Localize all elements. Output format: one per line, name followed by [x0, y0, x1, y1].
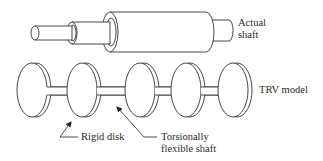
flexible-shaft-label-line1: Torsionally	[161, 131, 216, 143]
actual-shaft-label-line2: shaft	[238, 29, 266, 41]
diagram-canvas: Actual shaft TRV model Rigid disk Torsio…	[0, 0, 323, 161]
rigid-disk-1	[17, 63, 51, 117]
rigid-disk-2	[67, 63, 101, 117]
trv-model-illustration	[17, 63, 252, 117]
rigid-disk-leader-arrow	[60, 122, 78, 137]
rigid-disk-3	[125, 63, 159, 117]
actual-shaft-label: Actual shaft	[238, 17, 266, 41]
actual-shaft-label-line1: Actual	[238, 17, 266, 29]
rigid-disk-5	[218, 63, 252, 117]
actual-shaft-illustration	[31, 12, 233, 52]
trv-model-label: TRV model	[259, 84, 308, 96]
flexible-shaft-label-line2: flexible shaft	[161, 143, 216, 155]
rigid-disk-4	[171, 63, 205, 117]
flexible-shaft-label: Torsionally flexible shaft	[161, 131, 216, 155]
rigid-disk-label: Rigid disk	[81, 131, 124, 143]
